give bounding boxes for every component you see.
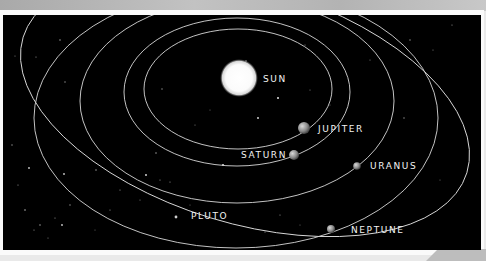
planet-jupiter	[298, 122, 310, 134]
label-jupiter: JUPITER	[317, 124, 364, 134]
label-pluto: PLUTO	[191, 211, 228, 221]
label-sun: SUN	[263, 74, 287, 84]
orbits	[3, 15, 481, 250]
orbit-neptune	[34, 15, 438, 248]
orbit-diagram-svg: SUN JUPITER SATURN URANUS NEPTUNE PLUTO	[3, 15, 481, 250]
label-saturn: SATURN	[241, 150, 287, 160]
label-uranus: URANUS	[370, 161, 417, 171]
planet-saturn	[289, 150, 299, 160]
sun	[220, 59, 258, 97]
label-neptune: NEPTUNE	[351, 225, 405, 235]
orbit-pluto	[3, 15, 481, 250]
planet-neptune	[327, 225, 335, 233]
solar-system-diagram: SUN JUPITER SATURN URANUS NEPTUNE PLUTO	[3, 15, 481, 250]
planet-pluto	[175, 216, 178, 219]
planet-uranus	[353, 162, 361, 170]
